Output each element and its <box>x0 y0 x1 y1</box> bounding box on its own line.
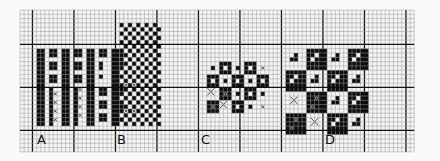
filled-cell <box>261 92 265 96</box>
filled-cell <box>136 92 140 96</box>
filled-cell <box>315 79 319 83</box>
filled-cell <box>136 109 140 113</box>
filled-cell <box>120 57 124 61</box>
filled-cell <box>356 118 360 122</box>
filled-cell <box>124 62 128 66</box>
filled-cell <box>140 70 144 74</box>
filled-cell <box>149 70 153 74</box>
filled-cell <box>132 27 136 31</box>
filled-cell <box>352 79 356 83</box>
filled-cell <box>128 118 132 122</box>
filled-cell <box>331 57 335 61</box>
filled-cell <box>120 109 124 113</box>
filled-cell <box>145 100 149 104</box>
filled-cell <box>294 57 298 61</box>
filled-cell <box>136 75 140 79</box>
filled-cell <box>124 113 128 117</box>
filled-cell <box>120 62 124 66</box>
filled-cell <box>132 62 136 66</box>
filled-cell <box>120 100 124 104</box>
filled-cell <box>248 79 252 83</box>
filled-cell <box>348 92 369 114</box>
filled-cell <box>132 36 136 40</box>
filled-cell <box>140 105 144 109</box>
filled-cell <box>132 113 136 117</box>
filled-cell <box>248 92 252 96</box>
filled-cell <box>136 23 140 27</box>
filled-cell <box>335 57 339 61</box>
filled-cell <box>136 49 140 53</box>
filled-cell <box>315 53 319 57</box>
filled-cell <box>99 75 103 79</box>
filled-cell <box>149 113 153 117</box>
filled-cell <box>286 113 307 135</box>
filled-cell <box>132 96 136 100</box>
filled-cell <box>207 100 219 113</box>
panel-label-b: B <box>117 133 126 146</box>
filled-cell <box>132 53 136 57</box>
filled-cell <box>306 49 327 70</box>
filled-cell <box>124 79 128 83</box>
panel-label-a: A <box>37 133 46 146</box>
filled-cell <box>145 109 149 113</box>
chart-grid <box>0 0 440 161</box>
filled-cell <box>145 75 149 79</box>
filled-cell <box>352 57 356 61</box>
filled-cell <box>124 122 128 126</box>
filled-cell <box>149 53 153 57</box>
filled-cell <box>136 66 140 70</box>
filled-cell <box>356 122 360 126</box>
filled-cell <box>352 122 356 126</box>
filled-cell <box>140 53 144 57</box>
filled-cell <box>331 100 335 104</box>
filled-cell <box>124 36 128 40</box>
filled-cell <box>128 49 132 53</box>
filled-cell <box>294 75 298 79</box>
filled-cell <box>120 75 124 79</box>
filled-cell <box>335 75 339 79</box>
filled-cell <box>315 75 319 79</box>
filled-cell <box>248 105 252 109</box>
filled-cell <box>128 109 132 113</box>
filled-cell <box>286 70 307 92</box>
filled-cell <box>145 49 149 53</box>
filled-cell <box>140 27 144 31</box>
filled-cell <box>335 96 339 100</box>
filled-cell <box>136 57 140 61</box>
filled-cell <box>149 122 153 126</box>
filled-cell <box>149 36 153 40</box>
filled-cell <box>136 100 140 104</box>
filled-cell <box>128 100 132 104</box>
filled-cell <box>120 118 124 122</box>
filled-cell <box>136 118 140 122</box>
filled-cell <box>327 70 348 92</box>
filled-cell <box>120 23 124 27</box>
filled-cell <box>149 96 153 100</box>
filled-cell <box>132 70 136 74</box>
filled-cell <box>335 53 339 57</box>
filled-cell <box>132 122 136 126</box>
filled-cell <box>335 118 339 122</box>
filled-cell <box>145 57 149 61</box>
filled-cell <box>145 118 149 122</box>
filled-cell <box>124 96 128 100</box>
filled-cell <box>294 53 298 57</box>
filled-cell <box>149 62 153 66</box>
filled-cell <box>149 79 153 83</box>
panel-label-c: C <box>201 133 210 146</box>
filled-cell <box>132 79 136 83</box>
filled-cell <box>331 79 335 83</box>
filled-cell <box>124 53 128 57</box>
filled-cell <box>120 32 124 36</box>
filled-cell <box>356 75 360 79</box>
filled-cell <box>311 57 315 61</box>
filled-cell <box>140 62 144 66</box>
filled-cell <box>145 32 149 36</box>
filled-cell <box>311 79 315 83</box>
filled-cell <box>145 23 149 27</box>
filled-cell <box>145 66 149 70</box>
filled-cell <box>128 57 132 61</box>
filled-cell <box>356 79 360 83</box>
filled-cell <box>128 92 132 96</box>
filled-cell <box>49 87 53 126</box>
